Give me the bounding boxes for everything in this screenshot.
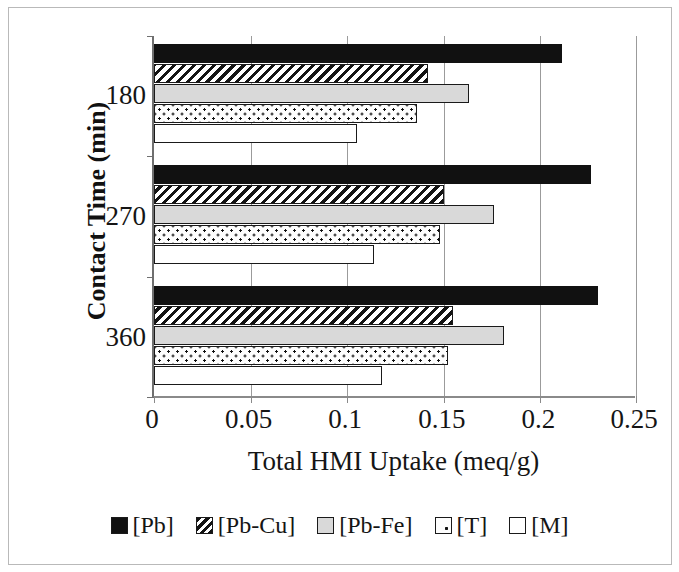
y-tick-bottom — [147, 397, 154, 398]
bar-fill-pb — [154, 44, 562, 63]
legend-item-pb: [Pb] — [111, 512, 174, 539]
legend-label-m: [M] — [531, 512, 568, 539]
x-tick-label-0.2: 0.2 — [522, 404, 556, 435]
bar-270-pbcu — [154, 185, 444, 204]
white-swatch-icon — [509, 517, 526, 534]
bar-180-t — [154, 104, 417, 123]
bar-180-pb — [154, 44, 562, 63]
bar-fill-pbfe — [154, 205, 494, 224]
plot-area — [152, 36, 635, 398]
bar-180-pbfe — [154, 84, 469, 103]
solid-black-swatch-icon — [111, 517, 128, 534]
chart-figure: Contact Time (min) 180 270 360 — [0, 0, 679, 572]
bar-360-m — [154, 366, 382, 385]
x-tick-label-0.1: 0.1 — [328, 404, 362, 435]
gridline-0.25 — [636, 36, 637, 396]
y-axis-tick-labels: 180 270 360 — [0, 0, 146, 572]
bar-180-pbcu — [154, 64, 428, 83]
legend-label-pb-fe: [Pb-Fe] — [339, 512, 412, 539]
bar-270-m — [154, 245, 374, 264]
bar-fill-pbcu — [154, 185, 444, 204]
bar-fill-pb — [154, 286, 598, 305]
bar-fill-pb — [154, 165, 591, 184]
bar-fill-t — [154, 104, 417, 123]
y-tick-top — [147, 36, 154, 37]
bar-270-pb — [154, 165, 591, 184]
y-tick-180-270 — [147, 156, 154, 157]
bar-fill-pbcu — [154, 64, 428, 83]
gray-swatch-icon — [317, 517, 334, 534]
bar-180-m — [154, 124, 357, 143]
bar-group-270 — [154, 157, 635, 277]
dotted-swatch-icon — [435, 517, 452, 534]
legend-label-pb: [Pb] — [133, 512, 174, 539]
bar-360-pbcu — [154, 306, 453, 325]
legend-item-pb-fe: [Pb-Fe] — [317, 512, 412, 539]
legend-label-t: [T] — [457, 512, 488, 539]
hatched-swatch-icon — [196, 517, 213, 534]
bar-group-180 — [154, 36, 635, 156]
bar-fill-pbcu — [154, 306, 453, 325]
y-tick-label-270: 270 — [106, 201, 147, 232]
legend-item-t: [T] — [435, 512, 488, 539]
legend-label-pb-cu: [Pb-Cu] — [218, 512, 295, 539]
bar-fill-m — [154, 366, 382, 385]
x-tick-label-0: 0 — [145, 404, 159, 435]
x-tick-label-0.05: 0.05 — [225, 404, 272, 435]
bar-fill-t — [154, 346, 448, 365]
bar-360-pbfe — [154, 326, 504, 345]
bar-fill-m — [154, 124, 357, 143]
bar-group-360 — [154, 278, 635, 398]
bar-fill-pbfe — [154, 84, 469, 103]
x-tick-0.25 — [636, 396, 637, 403]
x-tick-label-0.25: 0.25 — [610, 404, 657, 435]
chart-legend: [Pb] [Pb-Cu] [Pb-Fe] [T] [M] — [0, 512, 679, 539]
legend-item-m: [M] — [509, 512, 568, 539]
bar-270-pbfe — [154, 205, 494, 224]
bar-360-pb — [154, 286, 598, 305]
bar-fill-m — [154, 245, 374, 264]
x-tick-label-0.15: 0.15 — [418, 404, 465, 435]
legend-item-pb-cu: [Pb-Cu] — [196, 512, 295, 539]
bar-360-t — [154, 346, 448, 365]
x-axis-title: Total HMI Uptake (meq/g) — [152, 446, 635, 477]
y-tick-label-360: 360 — [106, 322, 147, 353]
bar-fill-t — [154, 225, 440, 244]
bar-270-t — [154, 225, 440, 244]
y-tick-270-360 — [147, 277, 154, 278]
y-tick-label-180: 180 — [106, 80, 147, 111]
bar-fill-pbfe — [154, 326, 504, 345]
